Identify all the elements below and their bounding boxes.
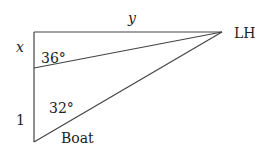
triangle-figure bbox=[0, 0, 272, 150]
line-boat-to-lighthouse bbox=[34, 32, 222, 142]
label-angle-36: 36° bbox=[41, 51, 66, 65]
label-y: y bbox=[128, 11, 136, 25]
label-x: x bbox=[16, 40, 24, 54]
label-lh: LH bbox=[234, 26, 256, 40]
label-one: 1 bbox=[16, 113, 25, 127]
triangle-diagram: y x 1 LH Boat 36° 32° bbox=[0, 0, 272, 150]
label-angle-32: 32° bbox=[49, 101, 74, 115]
label-boat: Boat bbox=[61, 131, 94, 145]
